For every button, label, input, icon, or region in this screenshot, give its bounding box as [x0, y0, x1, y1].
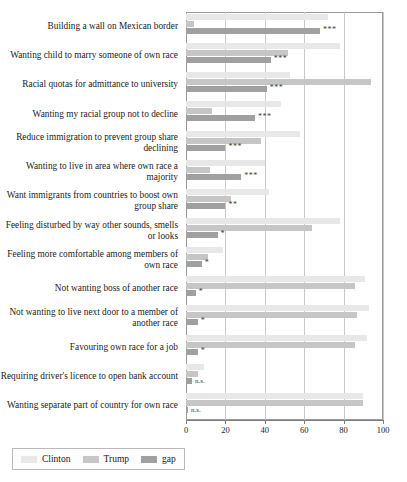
bar-track: [186, 79, 383, 85]
category-label: Wanting separate part of country for own…: [0, 400, 178, 411]
x-axis-tick: [344, 420, 345, 424]
bar-track: [186, 160, 383, 166]
legend-swatch-gap: [141, 456, 157, 463]
chart-legend: ClintonTrumpgap: [12, 448, 185, 470]
significance-marker: *: [199, 287, 204, 297]
x-axis-tick-label: 20: [221, 425, 230, 435]
bar-track: n.s.: [186, 407, 383, 413]
legend-item-gap[interactable]: gap: [141, 454, 176, 464]
bar-track: n.s.: [186, 378, 383, 384]
bar-track: *: [186, 261, 383, 267]
bar-track: [186, 101, 383, 107]
x-axis-tick-label: 40: [261, 425, 270, 435]
bar-track: *: [186, 319, 383, 325]
bar-track: [186, 131, 383, 137]
bar-trump: [186, 138, 261, 144]
x-axis-tick-label: 80: [339, 425, 348, 435]
bar-gap: [186, 407, 188, 413]
gridline: [383, 12, 384, 420]
bar-gap: [186, 28, 320, 34]
category-label: Wanting to live in area where own race a…: [0, 161, 178, 183]
bar-track: [186, 138, 383, 144]
bar-track: [186, 335, 383, 341]
bar-track: [186, 393, 383, 399]
bar-trump: [186, 21, 194, 27]
significance-marker: ***: [323, 25, 337, 35]
legend-item-trump[interactable]: Trump: [83, 454, 130, 464]
legend-item-clinton[interactable]: Clinton: [21, 454, 71, 464]
category-label: Want immigrants from countries to boost …: [0, 190, 178, 212]
bar-track: [186, 225, 383, 231]
bar-group: **: [186, 189, 383, 214]
legend-swatch-trump: [83, 456, 99, 463]
bar-clinton: [186, 393, 363, 399]
bar-clinton: [186, 335, 367, 341]
bar-gap: [186, 378, 192, 384]
bar-group: ***: [186, 101, 383, 126]
x-axis-tick: [304, 420, 305, 424]
bar-gap: [186, 261, 202, 267]
legend-label: Clinton: [42, 454, 71, 464]
category-label: Not wanting boss of another race: [0, 283, 178, 294]
bar-track: [186, 167, 383, 173]
bar-trump: [186, 225, 312, 231]
bar-track: [186, 254, 383, 260]
bar-track: ***: [186, 28, 383, 34]
bar-gap: [186, 57, 271, 63]
significance-marker: ***: [228, 142, 242, 152]
bar-clinton: [186, 218, 340, 224]
category-axis-labels: Building a wall on Mexican borderWanting…: [0, 12, 182, 420]
bar-clinton: [186, 14, 328, 20]
bar-group: *: [186, 305, 383, 330]
bar-clinton: [186, 101, 281, 107]
bar-track: [186, 43, 383, 49]
significance-marker: ***: [258, 112, 272, 122]
bar-clinton: [186, 305, 369, 311]
significance-marker: *: [201, 346, 206, 356]
legend-label: gap: [162, 454, 176, 464]
bar-clinton: [186, 247, 223, 253]
significance-marker: **: [228, 200, 237, 210]
category-label: Wanting my racial group not to decline: [0, 109, 178, 120]
legend-label: Trump: [104, 454, 130, 464]
category-label: Wanting child to marry someone of own ra…: [0, 50, 178, 61]
bar-track: [186, 305, 383, 311]
category-label: Favouring own race for a job: [0, 342, 178, 353]
bar-group: ***: [186, 160, 383, 185]
bar-track: [186, 364, 383, 370]
bar-track: ***: [186, 115, 383, 121]
bar-track: ***: [186, 86, 383, 92]
bar-group: n.s.: [186, 364, 383, 389]
plot-area: *************************n.s.n.s.: [186, 12, 383, 420]
significance-marker: n.s.: [195, 376, 205, 386]
x-axis: 020406080100: [186, 420, 383, 440]
bar-trump: [186, 312, 357, 318]
bar-track: [186, 218, 383, 224]
bar-gap: [186, 232, 218, 238]
category-label: Racial quotas for admittance to universi…: [0, 79, 178, 90]
bar-track: ***: [186, 145, 383, 151]
bar-track: [186, 247, 383, 253]
bar-clinton: [186, 131, 300, 137]
x-axis-tick-label: 0: [184, 425, 188, 435]
bar-gap: [186, 349, 198, 355]
bar-track: [186, 21, 383, 27]
category-label: Reduce immigration to prevent group shar…: [0, 132, 178, 154]
bar-track: [186, 196, 383, 202]
bar-group: *: [186, 335, 383, 360]
bar-track: *: [186, 290, 383, 296]
significance-marker: ***: [274, 54, 288, 64]
bar-gap: [186, 145, 225, 151]
category-label: Requiring driver's licence to open bank …: [0, 371, 178, 382]
bar-gap: [186, 319, 198, 325]
x-axis-tick: [225, 420, 226, 424]
bar-clinton: [186, 276, 365, 282]
category-label: Building a wall on Mexican border: [0, 21, 178, 32]
bar-gap: [186, 203, 225, 209]
bar-track: [186, 283, 383, 289]
chart-container: Building a wall on Mexican borderWanting…: [0, 0, 407, 482]
bar-clinton: [186, 43, 340, 49]
bar-track: [186, 371, 383, 377]
bar-clinton: [186, 72, 290, 78]
x-axis-tick: [383, 420, 384, 424]
